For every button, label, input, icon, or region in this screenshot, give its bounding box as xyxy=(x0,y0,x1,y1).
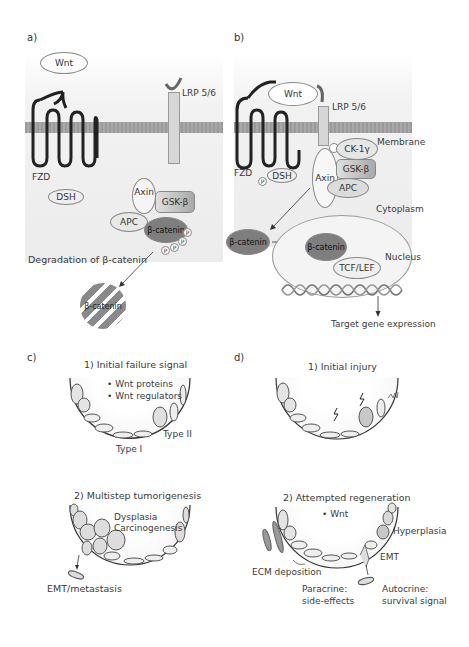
panel-d-autocrine-label: Autocrine: xyxy=(382,585,428,594)
panel-d-wnt-bullet: • Wnt xyxy=(322,510,348,519)
panel-d-ecm-label: ECM deposition xyxy=(252,568,322,577)
panel-d-paracrine-label: Paracrine: xyxy=(302,585,347,594)
panel-d-emt-label: EMT xyxy=(380,553,399,562)
panel-d-hyperplasia-label: Hyperplasia xyxy=(393,527,446,536)
panel-d-alveolus-2-regeneration-icon xyxy=(0,0,469,647)
panel-d-paracrine-sub-label: side-effects xyxy=(302,597,354,606)
panel-d-autocrine-sub-label: survival signal xyxy=(382,597,447,606)
